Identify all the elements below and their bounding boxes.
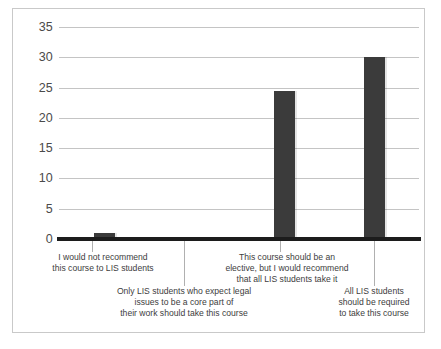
chart-figure-frame: 35302520151050 I would not recommend thi… xyxy=(12,8,425,333)
bar-2[interactable] xyxy=(274,91,295,239)
category-label-2: This course should be an elective, but I… xyxy=(209,252,365,286)
category-label-1: Only LIS students who expect legal issue… xyxy=(93,286,275,320)
gridline-35 xyxy=(59,27,419,28)
y-tick-label-10: 10 xyxy=(39,171,53,185)
category-label-0: I would not recommend this course to LIS… xyxy=(27,252,179,274)
y-tick-label-30: 30 xyxy=(39,50,53,64)
y-tick-label-25: 25 xyxy=(39,81,53,95)
category-leader-1 xyxy=(184,241,185,286)
y-tick-label-20: 20 xyxy=(39,111,53,125)
category-leader-0 xyxy=(92,241,93,252)
category-label-3: All LIS students should be required to t… xyxy=(313,286,435,320)
y-tick-label-0: 0 xyxy=(46,232,53,246)
plot-area: 35302520151050 xyxy=(59,27,419,239)
y-tick-label-5: 5 xyxy=(46,202,53,216)
category-leader-3 xyxy=(374,241,375,286)
y-tick-label-15: 15 xyxy=(39,141,53,155)
category-leader-2 xyxy=(280,241,281,252)
x-axis-baseline xyxy=(57,237,421,241)
bar-3[interactable] xyxy=(364,57,385,239)
y-tick-label-35: 35 xyxy=(39,20,53,34)
